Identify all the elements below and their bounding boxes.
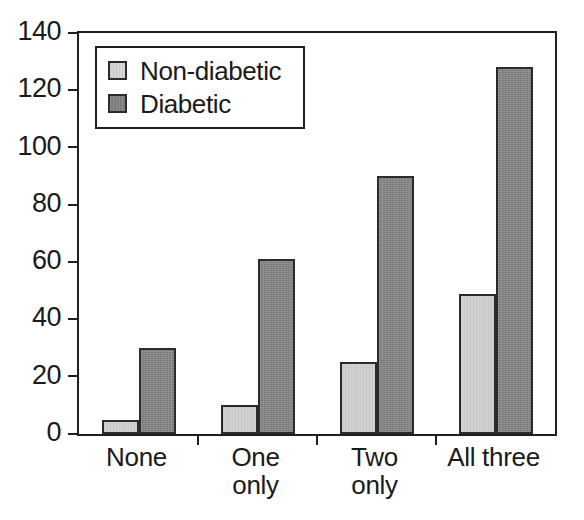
bar [459, 294, 496, 434]
y-axis-tick-label: 0 [0, 419, 61, 446]
y-axis-tick [68, 261, 79, 263]
y-axis-tick [68, 32, 79, 34]
y-axis-tick-label: 120 [0, 75, 61, 102]
chart-legend: Non-diabetic Diabetic [95, 46, 305, 129]
bar [340, 362, 377, 434]
y-axis-tick [68, 89, 79, 91]
bar-chart: 020406080100120140 NoneOne onlyTwo onlyA… [0, 0, 584, 520]
legend-item-diabetic: Diabetic [108, 87, 281, 120]
y-axis-tick [68, 204, 79, 206]
bar [102, 420, 139, 434]
bar [139, 348, 176, 434]
y-axis-tick-label: 140 [0, 18, 61, 45]
y-axis-tick-label: 60 [0, 247, 61, 274]
legend-item-non-diabetic: Non-diabetic [108, 54, 281, 87]
x-axis-category-label: Two only [315, 444, 434, 499]
y-axis-tick [68, 375, 79, 377]
legend-swatch-icon-non-diabetic [108, 61, 127, 80]
y-axis-tick [68, 433, 79, 435]
y-axis-tick-label: 80 [0, 189, 61, 216]
y-axis-tick [68, 146, 79, 148]
y-axis-tick-label: 40 [0, 304, 61, 331]
y-axis-tick [68, 318, 79, 320]
x-axis-category-label: All three [434, 444, 553, 472]
bar [377, 176, 414, 434]
bar [496, 67, 533, 434]
legend-swatch-icon-diabetic [108, 94, 127, 113]
bar [221, 405, 258, 434]
y-axis-tick-label: 100 [0, 132, 61, 159]
x-axis-category-label: None [77, 444, 196, 472]
x-axis-category-label: One only [196, 444, 315, 499]
legend-label-diabetic: Diabetic [140, 91, 231, 117]
y-axis-tick-label: 20 [0, 361, 61, 388]
bar [258, 259, 295, 434]
legend-label-non-diabetic: Non-diabetic [140, 58, 281, 84]
